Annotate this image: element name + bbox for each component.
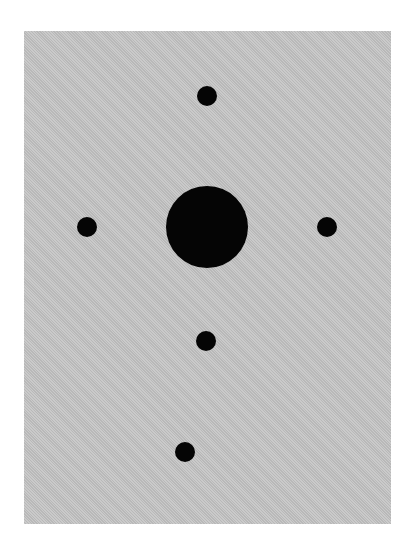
center-large-dot [166,186,248,268]
bottom-small-dot [175,442,195,462]
top-small-dot [197,86,217,106]
lower-middle-small-dot [196,331,216,351]
left-small-dot [77,217,97,237]
right-small-dot [317,217,337,237]
